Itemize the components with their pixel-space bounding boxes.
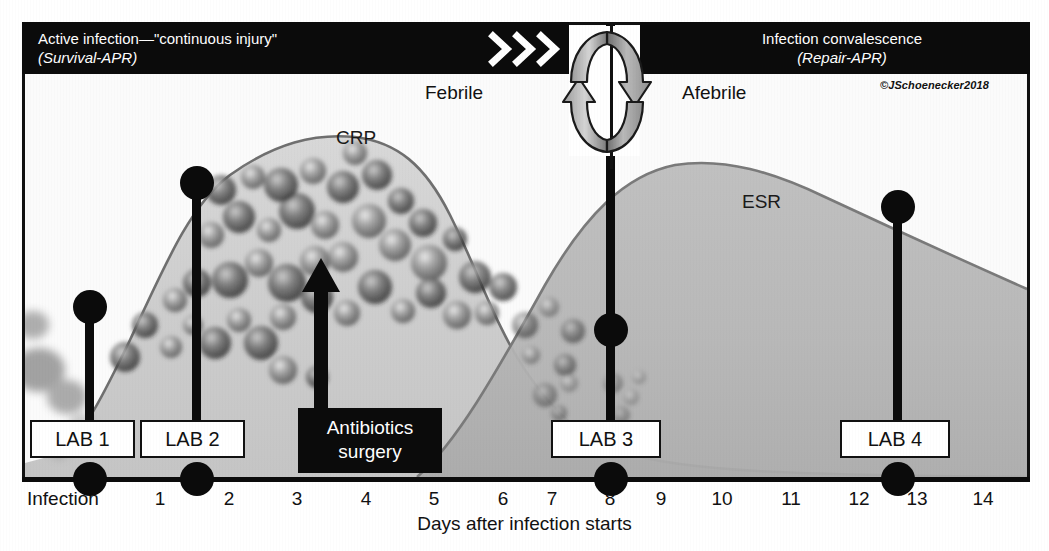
esr-curve	[25, 25, 1027, 477]
x-tick-4: 4	[361, 488, 372, 510]
crp-label: CRP	[336, 127, 376, 149]
x-tick-2: 2	[224, 488, 235, 510]
lab-axis-dot-4	[881, 462, 915, 496]
intervention-antibiotics-surgery: Antibiotics surgery	[298, 408, 442, 473]
esr-label: ESR	[742, 191, 781, 213]
lab-label-4: LAB 4	[868, 428, 922, 451]
lab-axis-dot-3	[594, 462, 628, 496]
lab-stem-1	[85, 310, 94, 435]
lab-box-4[interactable]: LAB 4	[840, 420, 950, 458]
banner-infection-convalescence: Infection convalescence (Repair-APR)	[654, 22, 1030, 74]
x-axis-line	[22, 477, 1030, 482]
x-tick-1: 1	[155, 488, 166, 510]
intervention-line1: Antibiotics	[298, 416, 442, 440]
x-tick-6: 6	[498, 488, 509, 510]
lab-stem-2	[192, 186, 201, 435]
infection-response-figure: CRP ESR Active infection—"continuous inj…	[0, 0, 1049, 551]
banner-left-subtitle: (Survival-APR)	[38, 48, 277, 67]
lab-axis-dot-2	[180, 462, 214, 496]
afebrile-label: Afebrile	[682, 82, 746, 104]
febrile-label: Febrile	[425, 82, 483, 104]
x-tick-12: 12	[848, 488, 869, 510]
banner-right-subtitle: (Repair-APR)	[654, 48, 1030, 67]
lab-label-2: LAB 2	[165, 428, 219, 451]
x-tick-5: 5	[429, 488, 440, 510]
lab-marker-2[interactable]	[180, 166, 214, 200]
x-tick-7: 7	[547, 488, 558, 510]
plot-area: CRP ESR	[22, 22, 1030, 480]
chevron-right-triple-icon	[487, 30, 567, 68]
banner-left-title: Active infection—"continuous injury"	[38, 29, 277, 48]
lab-marker-4[interactable]	[881, 190, 915, 224]
lab-box-1[interactable]: LAB 1	[30, 420, 135, 458]
x-tick-9: 9	[656, 488, 667, 510]
x-tick-3: 3	[292, 488, 303, 510]
up-arrow-icon	[300, 258, 342, 418]
x-tick-10: 10	[711, 488, 732, 510]
banner-active-infection: Active infection—"continuous injury" (Su…	[22, 22, 485, 74]
x-tick-14: 14	[972, 488, 993, 510]
copyright-notice: ©JSchoenecker2018	[880, 79, 989, 91]
lab-label-1: LAB 1	[55, 428, 109, 451]
lab-marker-1[interactable]	[73, 290, 107, 324]
lab-stem-4	[893, 210, 902, 435]
lab-label-3: LAB 3	[579, 428, 633, 451]
banner-right-title: Infection convalescence	[654, 29, 1030, 48]
intervention-line2: surgery	[298, 440, 442, 464]
x-axis-title: Days after infection starts	[0, 513, 1049, 535]
circular-cycle-arrows-icon	[561, 24, 653, 160]
lab-box-3[interactable]: LAB 3	[551, 420, 661, 458]
lab-marker-3[interactable]	[594, 313, 628, 347]
x-tick-11: 11	[781, 488, 801, 510]
lab-box-2[interactable]: LAB 2	[140, 420, 245, 458]
lab-axis-dot-1	[73, 462, 107, 496]
